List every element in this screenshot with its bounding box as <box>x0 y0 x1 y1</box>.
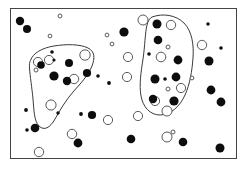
filled-data-point <box>147 52 151 56</box>
open-data-point <box>48 34 52 38</box>
filled-data-point <box>153 20 162 29</box>
filled-data-point <box>52 58 55 61</box>
filled-data-point <box>127 135 136 144</box>
open-data-point <box>156 52 166 62</box>
open-data-point <box>166 20 175 29</box>
open-data-point <box>80 50 90 60</box>
filled-data-point <box>219 46 223 50</box>
scatter-plot-svg <box>0 0 247 172</box>
filled-data-point <box>83 69 91 77</box>
filled-data-point <box>25 128 29 132</box>
filled-data-point <box>23 25 31 33</box>
filled-data-point <box>174 56 183 65</box>
figure-container <box>0 0 247 172</box>
open-data-point <box>105 33 109 37</box>
open-data-point <box>34 147 43 156</box>
open-data-point <box>197 40 206 49</box>
filled-data-point <box>63 77 71 85</box>
filled-data-point <box>49 71 58 80</box>
open-data-point <box>123 52 132 61</box>
open-data-point <box>103 115 112 124</box>
filled-data-point <box>149 95 157 103</box>
filled-data-point <box>207 86 216 95</box>
filled-data-point <box>154 36 163 45</box>
open-data-point <box>166 87 170 91</box>
filled-data-point <box>169 96 178 105</box>
filled-data-point <box>31 124 40 133</box>
filled-data-point <box>179 138 188 147</box>
filled-data-point <box>217 98 226 107</box>
open-data-point <box>44 55 53 64</box>
open-data-point <box>34 68 38 72</box>
open-data-point <box>133 111 142 120</box>
filled-data-point <box>206 22 209 25</box>
filled-data-point <box>205 57 214 66</box>
filled-data-point <box>96 74 100 78</box>
open-data-point <box>110 42 114 46</box>
filled-data-point <box>24 108 28 112</box>
open-data-point <box>176 83 185 92</box>
open-data-point <box>122 72 131 81</box>
open-data-point <box>162 106 172 116</box>
filled-data-point <box>74 139 83 148</box>
filled-data-point <box>56 111 59 114</box>
open-data-point <box>46 100 56 110</box>
filled-data-point <box>50 50 54 54</box>
filled-data-point <box>88 111 96 119</box>
open-data-point <box>162 132 172 142</box>
filled-data-point <box>79 112 83 116</box>
filled-data-point <box>119 27 128 36</box>
filled-data-point <box>37 61 45 69</box>
filled-data-point <box>163 77 167 81</box>
open-data-point <box>67 129 76 138</box>
open-data-point <box>171 130 175 134</box>
open-data-point <box>190 76 194 80</box>
filled-data-point <box>216 144 225 153</box>
open-data-point <box>138 15 148 25</box>
filled-data-point <box>172 73 181 82</box>
filled-data-point <box>107 81 111 85</box>
open-data-point <box>166 45 170 49</box>
filled-data-point <box>151 75 160 84</box>
open-data-point <box>58 14 62 18</box>
filled-data-point <box>65 59 73 67</box>
filled-data-point <box>16 17 24 25</box>
